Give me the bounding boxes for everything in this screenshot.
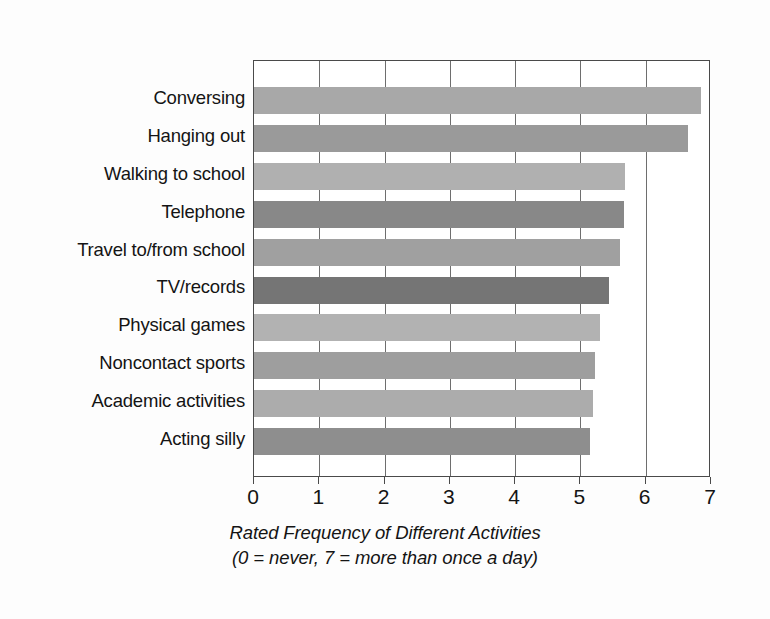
tick-mark-3 bbox=[449, 477, 450, 484]
x-tick-label-3: 3 bbox=[434, 485, 464, 509]
bar bbox=[254, 239, 620, 266]
tick-mark-4 bbox=[514, 477, 515, 484]
x-tick-label-7: 7 bbox=[695, 485, 725, 509]
y-axis-label: Walking to school bbox=[0, 164, 245, 184]
bar-row bbox=[254, 345, 709, 383]
y-axis-label: Physical games bbox=[0, 315, 245, 335]
bar-row bbox=[254, 307, 709, 345]
x-tick-label-1: 1 bbox=[303, 485, 333, 509]
tick-mark-6 bbox=[645, 477, 646, 484]
caption-line-1: Rated Frequency of Different Activities bbox=[0, 520, 770, 545]
x-tick-label-5: 5 bbox=[564, 485, 594, 509]
y-axis-label: Acting silly bbox=[0, 429, 245, 449]
tick-mark-2 bbox=[384, 477, 385, 484]
chart-caption: Rated Frequency of Different Activities … bbox=[0, 520, 770, 570]
bar-row bbox=[254, 270, 709, 308]
bar bbox=[254, 428, 590, 455]
bar-row bbox=[254, 232, 709, 270]
chart-page: ConversingHanging outWalking to schoolTe… bbox=[0, 0, 770, 619]
tick-mark-0 bbox=[253, 477, 254, 484]
bar bbox=[254, 390, 593, 417]
bar bbox=[254, 163, 625, 190]
x-tick-label-2: 2 bbox=[369, 485, 399, 509]
plot-area bbox=[253, 60, 710, 477]
bar-row bbox=[254, 194, 709, 232]
y-axis-label: Hanging out bbox=[0, 126, 245, 146]
bar-row bbox=[254, 156, 709, 194]
x-tick-label-6: 6 bbox=[630, 485, 660, 509]
x-tick-label-0: 0 bbox=[238, 485, 268, 509]
bar-row bbox=[254, 383, 709, 421]
tick-mark-5 bbox=[579, 477, 580, 484]
bar bbox=[254, 352, 595, 379]
y-axis-label: Telephone bbox=[0, 202, 245, 222]
x-axis-ticks: 01234567 bbox=[253, 477, 710, 511]
y-axis-label: TV/records bbox=[0, 277, 245, 297]
bar bbox=[254, 87, 701, 114]
tick-mark-1 bbox=[318, 477, 319, 484]
y-axis-label: Conversing bbox=[0, 88, 245, 108]
bar bbox=[254, 125, 688, 152]
tick-mark-7 bbox=[710, 477, 711, 484]
y-axis-labels: ConversingHanging outWalking to schoolTe… bbox=[0, 60, 245, 477]
y-axis-label: Academic activities bbox=[0, 391, 245, 411]
bar-row bbox=[254, 118, 709, 156]
bar-row bbox=[254, 80, 709, 118]
bar bbox=[254, 201, 624, 228]
bar-row bbox=[254, 421, 709, 459]
bar bbox=[254, 277, 609, 304]
x-tick-label-4: 4 bbox=[499, 485, 529, 509]
y-axis-label: Noncontact sports bbox=[0, 353, 245, 373]
y-axis-label: Travel to/from school bbox=[0, 240, 245, 260]
bar bbox=[254, 314, 600, 341]
caption-line-2: (0 = never, 7 = more than once a day) bbox=[0, 545, 770, 570]
